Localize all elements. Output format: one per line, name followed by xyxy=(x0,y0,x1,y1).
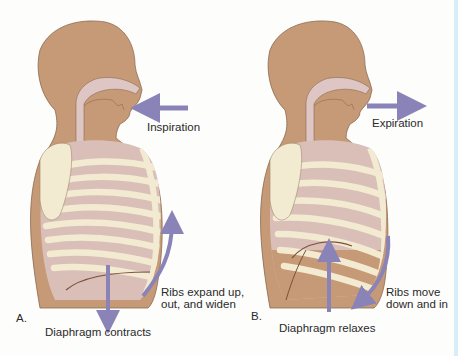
ribs-label-b-line1: Ribs move xyxy=(386,286,440,298)
diaphragm-label-a: Diaphragm contracts xyxy=(45,326,151,338)
panel-b-figure xyxy=(261,21,412,312)
respiration-diagram: Inspiration Ribs expand up, out, and wid… xyxy=(0,0,458,356)
panel-letter-b: B. xyxy=(251,310,262,322)
airflow-label-a: Inspiration xyxy=(147,121,200,133)
diaphragm-label-b: Diaphragm relaxes xyxy=(279,322,376,334)
ribs-label-a-line2: out, and widen xyxy=(161,298,236,310)
ribs-label-a-line1: Ribs expand up, xyxy=(161,286,244,298)
airflow-label-b: Expiration xyxy=(372,117,423,129)
ribs-label-b-line2: down and in xyxy=(386,298,448,310)
panel-letter-a: A. xyxy=(16,312,27,324)
panel-a-figure xyxy=(31,21,188,322)
